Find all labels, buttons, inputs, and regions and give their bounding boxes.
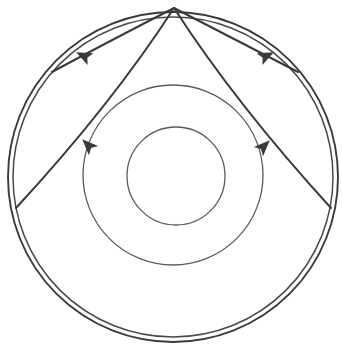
geometric-figure <box>0 0 342 355</box>
background-rect <box>0 0 342 355</box>
diagram-canvas <box>0 0 342 355</box>
